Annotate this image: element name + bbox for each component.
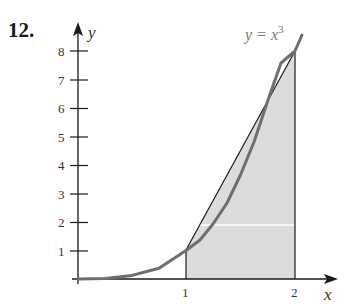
y-tick-label: 2 — [58, 215, 65, 230]
y-tick-label: 5 — [58, 130, 65, 145]
x-axis-label: x — [323, 285, 332, 304]
chart: 1 2 3 4 5 6 7 8 1 2 x y y = x3 — [0, 0, 345, 304]
x-tick-label-1: 1 — [182, 285, 189, 300]
y-ticks — [70, 51, 88, 251]
curve-label-exponent: 3 — [278, 23, 284, 35]
y-tick-label: 6 — [58, 101, 65, 116]
y-tick-label: 1 — [58, 244, 65, 259]
y-tick-label: 7 — [58, 73, 65, 88]
y-tick-label: 3 — [58, 187, 65, 202]
shaded-region — [186, 51, 295, 279]
curve-label: y = x3 — [243, 23, 284, 44]
curve-label-main: y = x — [243, 26, 278, 44]
x-tick-label-2: 2 — [291, 285, 298, 300]
y-tick-label: 4 — [58, 158, 65, 173]
y-tick-label: 8 — [58, 44, 65, 59]
y-axis-label: y — [86, 23, 96, 42]
